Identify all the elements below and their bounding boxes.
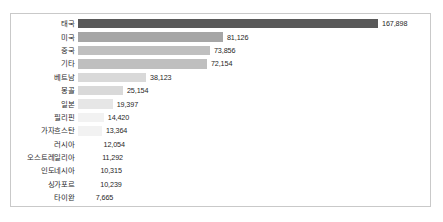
- bar-track: 7,665: [78, 191, 430, 204]
- bar-chart-plot-area: 태국167,898미국81,126중국73,856기타72,154베트남38,1…: [11, 14, 430, 206]
- bar-track: 38,123: [78, 71, 430, 84]
- bar: [78, 99, 113, 109]
- bar-track: 72,154: [78, 57, 430, 70]
- bar-track: 10,239: [78, 178, 430, 191]
- bar-category-label: 베트남: [11, 73, 78, 82]
- bar-track: 167,898: [78, 17, 430, 30]
- bar-row: 미국81,126: [11, 30, 430, 43]
- bar-category-label: 미국: [11, 33, 78, 42]
- chart-frame: 태국167,898미국81,126중국73,856기타72,154베트남38,1…: [10, 13, 431, 207]
- bar: [78, 59, 207, 69]
- bar-track: 11,292: [78, 151, 430, 164]
- bar-track: 14,420: [78, 111, 430, 124]
- bar-row: 가자흐스탄13,364: [11, 124, 430, 137]
- bar-row: 필리핀14,420: [11, 111, 430, 124]
- bar-value-label: 72,154: [207, 59, 232, 68]
- bar-row: 인도네시아10,315: [11, 164, 430, 177]
- bar: [78, 86, 123, 96]
- bar-track: 19,397: [78, 97, 430, 110]
- bar-value-label: 73,856: [210, 46, 235, 55]
- bar-value-label: 14,420: [104, 113, 129, 122]
- bar-row: 러시아12,054: [11, 138, 430, 151]
- bar-category-label: 필리핀: [11, 113, 78, 122]
- bar-category-label: 인도네시아: [11, 166, 78, 175]
- bar-row: 기타72,154: [11, 57, 430, 70]
- bar-track: 73,856: [78, 44, 430, 57]
- bar-value-label: 7,665: [92, 193, 114, 202]
- bar: [78, 126, 102, 136]
- bar-row: 싱가포르10,239: [11, 178, 430, 191]
- bar-category-label: 러시아: [11, 140, 78, 149]
- bar-category-label: 오스트레일리아: [11, 153, 78, 162]
- bar-category-label: 몽골: [11, 86, 78, 95]
- bar-row: 타이완7,665: [11, 191, 430, 204]
- bar-value-label: 167,898: [378, 19, 407, 28]
- bar-value-label: 11,292: [98, 153, 123, 162]
- bar-category-label: 태국: [11, 19, 78, 28]
- bar-row: 중국73,856: [11, 44, 430, 57]
- bar: [78, 46, 210, 56]
- bar-value-label: 81,126: [223, 33, 248, 42]
- bar-row: 태국167,898: [11, 17, 430, 30]
- bar-category-label: 싱가포르: [11, 180, 78, 189]
- bar-value-label: 13,364: [102, 126, 127, 135]
- bar: [78, 19, 378, 29]
- bar-row: 베트남38,123: [11, 71, 430, 84]
- bar-category-label: 기타: [11, 59, 78, 68]
- bar-category-label: 가자흐스탄: [11, 126, 78, 135]
- bar-value-label: 25,154: [123, 86, 148, 95]
- bar-track: 10,315: [78, 164, 430, 177]
- bar-value-label: 10,315: [96, 166, 121, 175]
- bar: [78, 73, 146, 83]
- bar: [78, 113, 104, 123]
- bar-category-label: 중국: [11, 46, 78, 55]
- bar-row: 일본19,397: [11, 97, 430, 110]
- bar-track: 81,126: [78, 30, 430, 43]
- bar: [78, 32, 223, 42]
- bar-category-label: 타이완: [11, 193, 78, 202]
- bar-track: 13,364: [78, 124, 430, 137]
- bar-value-label: 12,054: [100, 140, 125, 149]
- bar-value-label: 38,123: [146, 73, 171, 82]
- bar-track: 25,154: [78, 84, 430, 97]
- bar-track: 12,054: [78, 138, 430, 151]
- bar-row: 몽골25,154: [11, 84, 430, 97]
- bar-row: 오스트레일리아11,292: [11, 151, 430, 164]
- bar-value-label: 19,397: [113, 100, 138, 109]
- bar-value-label: 10,239: [96, 180, 121, 189]
- bar-category-label: 일본: [11, 100, 78, 109]
